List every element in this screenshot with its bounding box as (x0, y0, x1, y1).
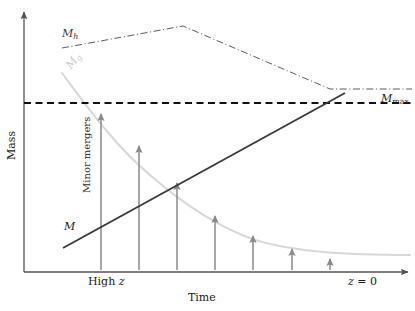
max-mass-subscript: max (392, 97, 409, 106)
gas-mass-curve (62, 73, 410, 255)
x-tick-high-z: High z (88, 276, 125, 287)
x-axis-label: Time (188, 292, 216, 303)
halo-mass-subscript: h (73, 32, 78, 41)
plot-canvas (0, 0, 415, 311)
minor-merger-arrows (101, 114, 330, 270)
figure-container: Mh Mg Mmax M Minor mergers Mass Time Hig… (0, 0, 415, 311)
halo-mass-curve (62, 26, 412, 89)
max-mass-symbol: M (381, 92, 392, 105)
y-axis-label: Mass (6, 131, 17, 160)
redshift-symbol-left: z (119, 275, 125, 288)
redshift-symbol-right: z (348, 275, 354, 288)
x-tick-z-zero: z = 0 (348, 276, 377, 287)
minor-mergers-label: Minor mergers (82, 117, 92, 193)
stellar-mass-label: M (64, 221, 75, 232)
max-mass-label: Mmax (381, 93, 409, 106)
halo-mass-symbol: M (62, 27, 73, 40)
halo-mass-label: Mh (62, 28, 78, 41)
stellar-mass-line (63, 93, 345, 248)
